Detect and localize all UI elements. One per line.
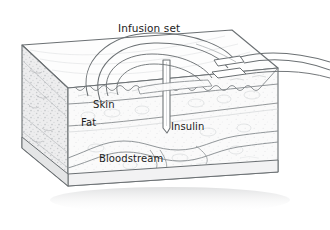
diagram-canvas bbox=[0, 0, 330, 230]
label-skin: Skin bbox=[93, 99, 115, 110]
cannula bbox=[163, 60, 170, 133]
label-insulin: Insulin bbox=[171, 121, 204, 132]
insulin-infusion-diagram: Infusion set Skin Fat Insulin Bloodstrea… bbox=[0, 0, 330, 230]
label-bloodstream: Bloodstream bbox=[99, 153, 163, 164]
block-shadow bbox=[50, 187, 290, 213]
label-infusion-set: Infusion set bbox=[118, 23, 180, 34]
label-fat: Fat bbox=[81, 117, 96, 128]
